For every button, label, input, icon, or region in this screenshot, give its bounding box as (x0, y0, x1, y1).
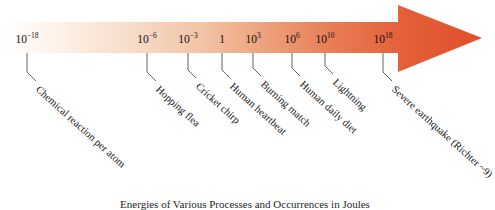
tick-label: 10−18 (15, 34, 38, 46)
figure-caption: Energies of Various Processes and Occurr… (0, 198, 490, 210)
tick-label: 10−3 (178, 34, 197, 46)
tick-label: 103 (245, 34, 260, 46)
tick-label: 1010 (316, 34, 335, 46)
tick-label: 1 (219, 34, 225, 46)
tick-label: 10−6 (137, 34, 156, 46)
tick-label: 1018 (374, 34, 393, 46)
tick-label: 106 (284, 34, 299, 46)
callout-label: Hopping flea (153, 84, 201, 129)
callout-label: Chemical reaction per atom (33, 84, 126, 170)
callout-label: Severe earthquake (Richter ~9) (389, 84, 494, 180)
